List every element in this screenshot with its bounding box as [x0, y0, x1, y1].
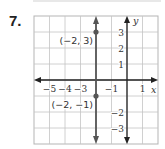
x-tick-label: 1 [140, 84, 146, 94]
x-tick-label: −3 [74, 84, 88, 94]
coordinate-plane: yx−5−4−3−11321−2−3(−2, 3)(−2, −1) [0, 0, 165, 149]
data-point [93, 29, 98, 34]
y-tick-label: −3 [111, 124, 125, 134]
y-tick-label: 3 [118, 28, 124, 38]
point-label: (−2, 3) [59, 35, 93, 46]
x-tick-label: −1 [105, 84, 118, 94]
data-point [93, 93, 98, 98]
point-label: (−2, −1) [52, 99, 93, 110]
x-axis-label: x [151, 84, 157, 95]
x-tick-label: −4 [58, 84, 72, 94]
y-axis-label: y [132, 15, 139, 26]
y-tick-label: 1 [118, 60, 124, 70]
y-tick-label: 2 [118, 44, 124, 54]
y-tick-label: −2 [111, 108, 124, 118]
x-tick-label: −5 [43, 84, 57, 94]
